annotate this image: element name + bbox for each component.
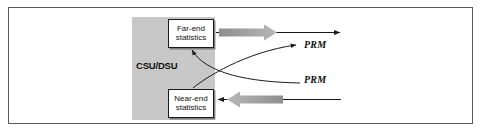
far-end-line2: statistics [176,34,207,43]
csudsu-label: CSU/DSU [136,60,177,71]
outbound-gray-arrow [219,25,277,41]
prm-inbound-label: PRM [304,74,326,85]
far-end-statistics-box: Far-end statistics [168,19,214,48]
diagram-canvas [0,0,483,133]
figure-root: CSU/DSU Far-end statistics Near-end stat… [0,0,483,133]
prm-outbound-label: PRM [304,39,326,50]
near-end-line2: statistics [176,104,207,113]
inbound-gray-arrow [227,92,283,108]
near-end-statistics-box: Near-end statistics [168,89,214,118]
